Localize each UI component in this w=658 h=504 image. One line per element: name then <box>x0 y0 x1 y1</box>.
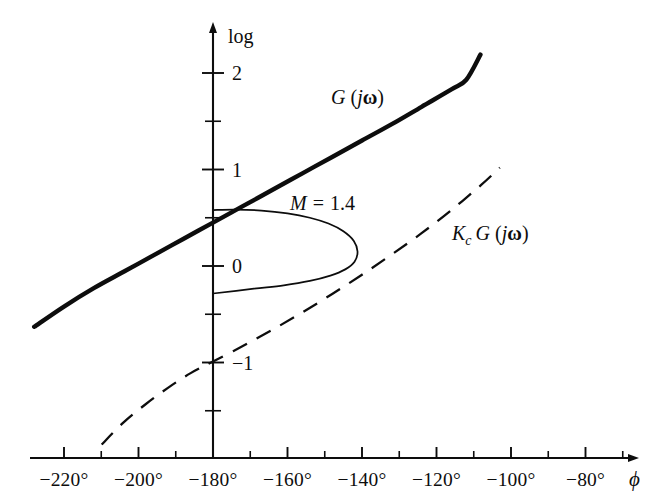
figure-background <box>0 0 658 504</box>
x-tick-label: −120° <box>412 469 461 490</box>
y-tick-label: −1 <box>232 352 253 374</box>
x-axis-name: ϕ <box>629 467 640 491</box>
y-tick-label: 1 <box>232 159 242 181</box>
x-tick-label: −220° <box>39 469 88 490</box>
x-tick-label: −160° <box>263 469 312 490</box>
label-g-jw: G(jω) <box>331 86 384 109</box>
x-tick-label: −100° <box>486 469 535 490</box>
chart-canvas: −220°−200°−180°−160°−140°−120°−100°−80° … <box>0 0 658 504</box>
x-tick-label: −80° <box>566 469 605 490</box>
y-tick-label: 2 <box>232 62 242 84</box>
x-tick-label: −140° <box>337 469 386 490</box>
y-axis-name: log <box>228 25 254 48</box>
y-tick-label: 0 <box>232 255 242 277</box>
nichols-chart-figure: −220°−200°−180°−160°−140°−120°−100°−80° … <box>0 0 658 504</box>
x-tick-label: −180° <box>188 469 237 490</box>
label-m-contour: M=1.4 <box>289 192 355 214</box>
x-tick-label: −200° <box>114 469 163 490</box>
